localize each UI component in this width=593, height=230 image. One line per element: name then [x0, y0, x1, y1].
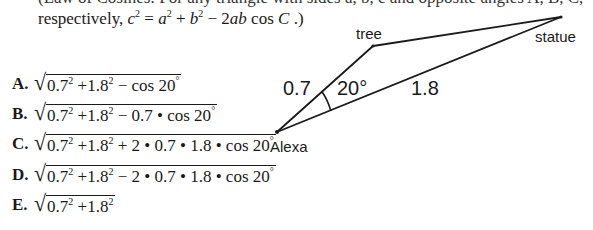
statue-point [559, 15, 562, 18]
answer-option-a[interactable]: A. √ 0.72 +1.82 − cos 20° [12, 69, 181, 99]
square-root-expression: √ 0.72 +1.82 − cos 20° [34, 72, 181, 96]
answer-option-b[interactable]: B. √ 0.72 +1.82 − 0.7 • cos 20° [12, 99, 217, 129]
tree-point [371, 44, 374, 47]
square-root-expression: √ 0.72 +1.82 − 2 • 0.7 • 1.8 • cos 20° [34, 163, 276, 187]
square-root-expression: √ 0.72 +1.82 − 0.7 • cos 20° [34, 102, 217, 126]
angle-arc [322, 92, 331, 111]
label-side-1-8: 1.8 [411, 77, 439, 99]
square-root-expression: √ 0.72 +1.82 [34, 193, 115, 217]
question-intro: respectively, c2 = a2 + b2 − 2ab cos C .… [38, 9, 304, 29]
option-letter: A. [12, 74, 34, 94]
radical-sign-icon: √ [34, 71, 46, 96]
label-statue: statue [535, 28, 576, 45]
law-of-cosines-formula: c2 = a2 + b2 − 2ab cos C .) [128, 9, 304, 28]
option-letter: D. [12, 165, 34, 185]
side-alexa-tree [277, 46, 373, 132]
label-side-0-7: 0.7 [283, 77, 311, 99]
radical-sign-icon: √ [34, 101, 46, 126]
radical-sign-icon: √ [34, 192, 46, 217]
answer-option-c[interactable]: C. √ 0.72 +1.82 + 2 • 0.7 • 1.8 • cos 20… [12, 129, 276, 159]
intro-prefix: respectively, [38, 9, 123, 28]
option-letter: B. [12, 104, 34, 124]
radical-sign-icon: √ [34, 162, 46, 187]
clipped-question-line: (Law of Cosines: For any triangle with s… [38, 0, 593, 8]
label-tree: tree [356, 25, 382, 42]
side-alexa-statue [277, 17, 561, 132]
answer-option-e[interactable]: E. √ 0.72 +1.82 [12, 190, 115, 220]
label-angle-20: 20° [337, 77, 367, 99]
option-letter: C. [12, 134, 34, 154]
answer-option-d[interactable]: D. √ 0.72 +1.82 − 2 • 0.7 • 1.8 • cos 20… [12, 160, 276, 190]
square-root-expression: √ 0.72 +1.82 + 2 • 0.7 • 1.8 • cos 20° [34, 132, 276, 156]
side-tree-statue [373, 17, 561, 46]
radical-sign-icon: √ [34, 131, 46, 156]
option-letter: E. [12, 195, 34, 215]
